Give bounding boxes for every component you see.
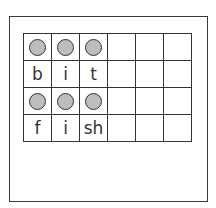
letter-row-bit: b i t: [24, 61, 192, 88]
grid-cell: [108, 34, 136, 61]
letter-row-fish: f i sh: [24, 115, 192, 142]
grid-cell: [164, 88, 192, 115]
dot-row-2: [24, 88, 192, 115]
grid-cell: [136, 115, 164, 142]
letter-cell: f: [24, 115, 52, 142]
sound-dot-icon: [29, 93, 46, 110]
letter-cell: i: [52, 115, 80, 142]
grid-cell: [108, 88, 136, 115]
sound-dot-icon: [85, 93, 102, 110]
letter-cell: sh: [80, 115, 108, 142]
sound-dot-icon: [85, 39, 102, 56]
sound-box-grid: b i t f i sh: [23, 33, 192, 142]
sound-dot-icon: [57, 93, 74, 110]
letter-cell: i: [52, 61, 80, 88]
dot-row-1: [24, 34, 192, 61]
grid-cell: [164, 115, 192, 142]
letter-cell: t: [80, 61, 108, 88]
grid-cell: [164, 34, 192, 61]
grid-cell: [108, 61, 136, 88]
grid-cell: [80, 88, 108, 115]
grid-cell: [136, 61, 164, 88]
grid-cell: [24, 34, 52, 61]
grid-cell: [136, 88, 164, 115]
grid-cell: [136, 34, 164, 61]
grid-cell: [164, 61, 192, 88]
letter-cell: b: [24, 61, 52, 88]
grid-cell: [80, 34, 108, 61]
sound-dot-icon: [57, 39, 74, 56]
grid-cell: [52, 88, 80, 115]
sound-dot-icon: [29, 39, 46, 56]
grid-cell: [52, 34, 80, 61]
grid-cell: [108, 115, 136, 142]
grid-cell: [24, 88, 52, 115]
